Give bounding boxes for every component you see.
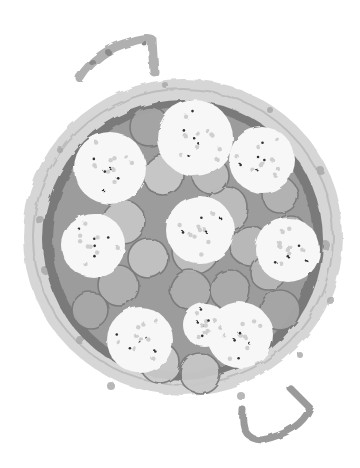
bottom-right-handle [243, 388, 310, 440]
rice-cluster [157, 100, 233, 176]
vegetable-slice [180, 353, 220, 393]
rice-cluster [229, 127, 295, 193]
rice-cluster [166, 196, 234, 264]
vegetable-slice [72, 292, 108, 328]
top-left-handle [80, 38, 154, 78]
rice-cluster [183, 303, 227, 347]
rice-cluster [256, 218, 320, 282]
rice-cluster [61, 213, 125, 277]
paella-pan-illustration [0, 0, 360, 468]
rice-cluster [74, 132, 146, 204]
rice-cluster [107, 307, 173, 373]
